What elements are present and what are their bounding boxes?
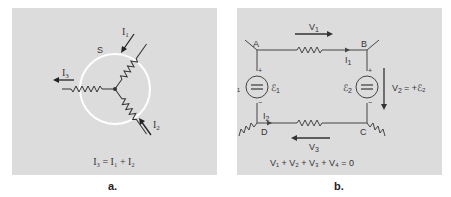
voltage-v2-label: V2= +ℰ₂ (392, 83, 426, 94)
voltage-v1-label: V1 (309, 22, 319, 33)
current-i2-label: I2 (263, 111, 270, 122)
node-b-label: B (361, 39, 367, 49)
figure-a-panel: S I1 I2 I3 I₃ = I₁ + I₂ (12, 8, 217, 175)
figure-b-panel: + − + − A B C D V1 V2= +ℰ₂ V3 V4= −ℰ₁ (237, 8, 442, 175)
figure-a-caption: a. (108, 180, 117, 192)
resistor-1 (113, 42, 149, 90)
node-d-label: D (261, 127, 268, 137)
surface-label: S (97, 45, 103, 55)
voltage-v4-label: V4= −ℰ₁ (237, 83, 240, 94)
source-e2: + − (356, 67, 378, 106)
junction-diagram: S I1 I2 I3 I₃ = I₁ + I₂ (12, 8, 217, 175)
svg-text:−: − (258, 99, 262, 106)
svg-text:+: + (258, 67, 262, 74)
svg-text:+: + (368, 67, 372, 74)
kcl-equation: I₃ = I₁ + I₂ (93, 156, 135, 167)
node-a-label: A (253, 39, 259, 49)
arrow-v1-icon (327, 31, 333, 37)
arrow-i1-icon (121, 46, 127, 53)
resistor-3 (62, 86, 115, 92)
kvl-equation: V₁ + V₂ + V₃ + V₄ = 0 (270, 158, 354, 168)
current-i3-label: I3 (62, 67, 69, 80)
arrow-i1-icon (345, 48, 350, 53)
arrow-v3-icon (291, 135, 297, 141)
arrow-i2-icon (139, 118, 145, 125)
figure-b-caption: b. (334, 180, 344, 192)
current-i2-label: I2 (153, 119, 160, 132)
resistor-2 (113, 87, 149, 135)
source-e1: + − (246, 67, 268, 106)
current-i1-label: I1 (122, 26, 129, 39)
loop-diagram: + − + − A B C D V1 V2= +ℰ₂ V3 V4= −ℰ₁ (237, 8, 442, 175)
node-c-label: C (360, 127, 367, 137)
current-i1-label: I1 (345, 55, 352, 66)
voltage-v3-label: V3 (309, 142, 319, 153)
arrow-v2-icon (381, 104, 387, 110)
arrow-i3-icon (53, 77, 59, 83)
source-e1-label: ℰ1 (271, 83, 280, 94)
source-e2-label: ℰ2 (343, 83, 352, 94)
svg-text:−: − (368, 99, 372, 106)
